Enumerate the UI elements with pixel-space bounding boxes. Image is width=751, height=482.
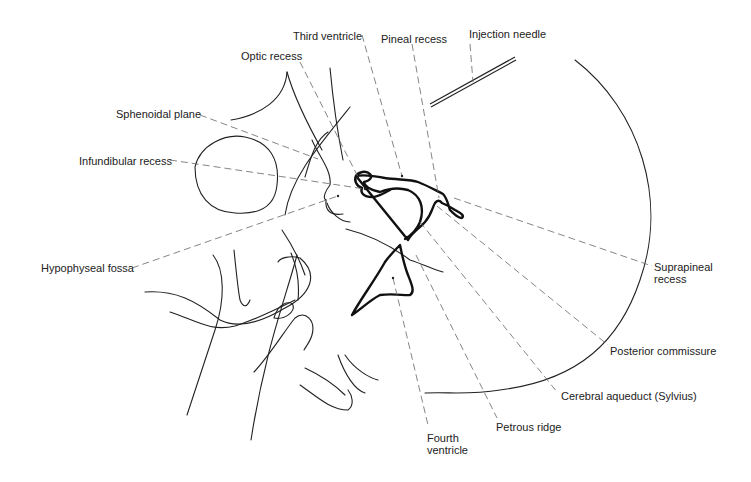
- third-ventricle-outline: [356, 172, 463, 240]
- label-suprapineal-recess: Suprapineal recess: [654, 261, 713, 285]
- label-optic-recess: Optic recess: [241, 50, 302, 62]
- label-cerebral-aqueduct: Cerebral aqueduct (Sylvius): [561, 390, 697, 402]
- label-third-ventricle: Third ventricle: [293, 30, 362, 42]
- label-injection-needle: Injection needle: [469, 28, 546, 40]
- leader-pineal-recess: [412, 44, 439, 198]
- leader-injection-needle: [470, 44, 473, 82]
- anatomy-diagram: Third ventricle Pineal recess Injection …: [0, 0, 751, 482]
- posterior-curve-3: [338, 355, 365, 393]
- posterior-curve-1: [305, 368, 345, 395]
- label-petrous-ridge: Petrous ridge: [496, 421, 561, 433]
- leader-suprapineal-recess: [454, 198, 652, 266]
- diagram-drawing: [0, 0, 751, 482]
- label-pineal-recess: Pineal recess: [381, 33, 447, 45]
- pointer-dot: [337, 195, 339, 197]
- skull-base-line-1: [145, 257, 311, 324]
- pointer-dot: [392, 277, 394, 279]
- mastoid-curve: [254, 315, 313, 372]
- clinoid-line-2: [330, 68, 343, 160]
- label-hypophyseal-fossa: Hypophyseal fossa: [41, 262, 134, 274]
- injection-needle-edge: [431, 60, 516, 107]
- pointer-dot: [357, 176, 359, 178]
- label-fourth-ventricle: Fourth ventricle: [427, 432, 468, 456]
- leader-fourth-ventricle: [393, 278, 428, 425]
- cervical-line-1: [187, 255, 222, 415]
- posterior-curve-2: [300, 385, 352, 410]
- leader-infundibular-recess: [170, 160, 365, 189]
- leader-third-ventricle: [362, 35, 402, 176]
- label-posterior-commissure: Posterior commissure: [610, 345, 716, 357]
- cranial-base-arc: [231, 72, 287, 120]
- pointer-dot: [401, 175, 403, 177]
- label-infundibular-recess: Infundibular recess: [79, 155, 172, 167]
- clinoid-curve: [285, 107, 350, 215]
- label-sphenoidal-plane: Sphenoidal plane: [116, 108, 201, 120]
- sphenoid-sinus-circle: [195, 136, 278, 213]
- cervical-line-2: [234, 250, 250, 306]
- leader-petrous-ridge: [416, 255, 497, 418]
- clivus-line-2: [291, 253, 299, 300]
- pointer-dot: [364, 188, 366, 190]
- clinoid-line-1: [287, 72, 322, 150]
- posterior-curve-4: [345, 355, 378, 380]
- leader-sphenoidal-plane: [200, 115, 318, 159]
